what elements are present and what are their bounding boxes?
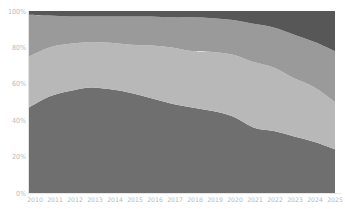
x-tick-label: 2010	[27, 196, 43, 203]
y-tick-label: 20%	[12, 153, 26, 161]
x-tick-label: 2018	[187, 196, 203, 203]
stacked-area-chart: 0%20%40%60%80%100% 201020112012201320142…	[0, 0, 345, 209]
x-tick-label: 2020	[227, 196, 243, 203]
x-tick-label: 2016	[147, 196, 163, 203]
x-tick-label: 2013	[87, 196, 103, 203]
y-tick-label: 60%	[12, 80, 26, 88]
y-tick-label: 0%	[16, 190, 26, 198]
x-axis-ticks: 2010201120122013201420152016201720182019…	[27, 196, 343, 203]
x-tick-label: 2022	[267, 196, 283, 203]
y-tick-label: 100%	[8, 8, 26, 16]
x-tick-label: 2015	[127, 196, 143, 203]
x-tick-label: 2024	[307, 196, 323, 203]
x-tick-label: 2019	[207, 196, 223, 203]
area-layers	[29, 11, 335, 193]
x-tick-label: 2017	[167, 196, 183, 203]
x-tick-label: 2025	[327, 196, 343, 203]
x-tick-label: 2014	[107, 196, 123, 203]
x-tick-label: 2011	[47, 196, 63, 203]
y-axis-ticks: 0%20%40%60%80%100%	[8, 8, 26, 198]
x-tick-label: 2012	[67, 196, 83, 203]
y-tick-label: 40%	[12, 117, 26, 125]
x-tick-label: 2021	[247, 196, 263, 203]
y-tick-label: 80%	[12, 44, 26, 52]
x-tick-label: 2023	[287, 196, 303, 203]
